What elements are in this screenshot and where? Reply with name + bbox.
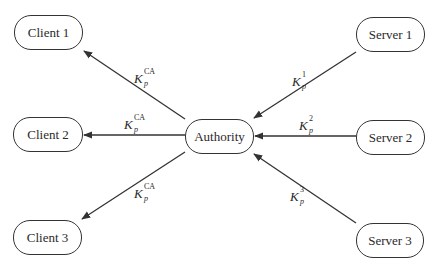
label-base: K xyxy=(299,118,308,133)
label-sup: CA xyxy=(144,68,155,76)
edge-label-server1: K1p xyxy=(292,75,301,88)
edge-label-server2: K2p xyxy=(299,119,308,132)
node-label: Server 1 xyxy=(369,27,413,43)
label-sup: 1 xyxy=(302,71,306,79)
edge-label-server3: K3p xyxy=(290,190,299,203)
label-sup: 3 xyxy=(300,186,304,194)
label-sup: 2 xyxy=(309,115,313,123)
edge-label-client3: KCAp xyxy=(134,187,143,200)
label-sup: CA xyxy=(144,183,155,191)
node-server-1: Server 1 xyxy=(356,17,425,52)
node-server-3: Server 3 xyxy=(356,223,424,258)
label-base: K xyxy=(290,189,299,204)
node-server-2: Server 2 xyxy=(356,120,425,155)
label-base: K xyxy=(124,117,133,132)
label-sub: p xyxy=(300,198,304,206)
node-label: Authority xyxy=(194,129,245,145)
node-client-3: Client 3 xyxy=(13,220,82,255)
edge-label-client1: KCAp xyxy=(134,72,143,85)
node-label: Server 2 xyxy=(369,130,413,146)
node-client-1: Client 1 xyxy=(14,15,83,50)
label-sub: p xyxy=(134,126,138,134)
node-label: Server 3 xyxy=(368,233,412,249)
label-sub: p xyxy=(309,127,313,135)
label-base: K xyxy=(134,186,143,201)
node-label: Client 3 xyxy=(27,230,69,246)
label-sub: p xyxy=(144,195,148,203)
key-distribution-diagram: Client 1 Client 2 Client 3 Authority Ser… xyxy=(0,0,436,269)
node-authority: Authority xyxy=(185,119,254,154)
label-sub: p xyxy=(144,80,148,88)
label-base: K xyxy=(134,71,143,86)
label-sup: CA xyxy=(134,114,145,122)
node-client-2: Client 2 xyxy=(13,117,83,152)
node-label: Client 1 xyxy=(28,25,70,41)
label-sub: p xyxy=(302,83,306,91)
edge-server3-authority xyxy=(254,154,356,223)
label-base: K xyxy=(292,74,301,89)
edge-label-client2: KCAp xyxy=(124,118,133,131)
node-label: Client 2 xyxy=(27,127,69,143)
